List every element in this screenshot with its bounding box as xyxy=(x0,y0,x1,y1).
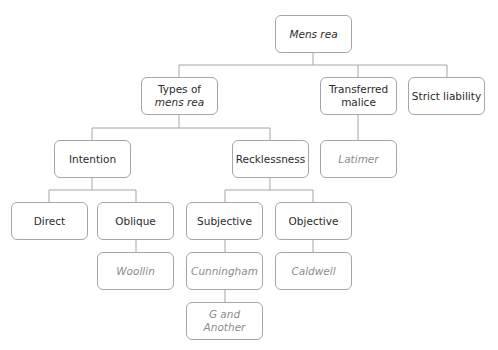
node-label: Oblique xyxy=(115,215,156,228)
node-label: Cunningham xyxy=(191,265,258,278)
node-direct: Direct xyxy=(11,202,88,240)
node-label: Caldwell xyxy=(291,265,335,278)
node-label-line2: mens rea xyxy=(155,96,204,109)
node-case-g-and-another: G and Another xyxy=(186,302,263,340)
node-case-cunningham: Cunningham xyxy=(186,252,263,290)
node-oblique: Oblique xyxy=(97,202,174,240)
node-label-line2: malice xyxy=(329,96,388,109)
node-label: Direct xyxy=(34,215,65,228)
node-label: Objective xyxy=(289,215,339,228)
node-label: Latimer xyxy=(338,153,378,166)
node-label: Woollin xyxy=(116,265,155,278)
node-subjective: Subjective xyxy=(186,202,263,240)
node-label: Subjective xyxy=(197,215,252,228)
node-case-caldwell: Caldwell xyxy=(275,252,352,290)
node-mens-rea: Mens rea xyxy=(275,15,352,53)
node-case-latimer: Latimer xyxy=(320,140,397,178)
node-label-line1: Transferred xyxy=(329,83,388,96)
node-objective: Objective xyxy=(275,202,352,240)
node-label: Intention xyxy=(69,153,116,166)
node-recklessness: Recklessness xyxy=(232,140,309,178)
node-case-woollin: Woollin xyxy=(97,252,174,290)
node-label: G and Another xyxy=(187,308,262,334)
node-strict-liability: Strict liability xyxy=(408,77,485,115)
node-types-of-mens-rea: Types of mens rea xyxy=(141,77,218,115)
node-label: Recklessness xyxy=(236,153,306,166)
node-label-line1: Types of xyxy=(155,83,204,96)
node-label: Mens rea xyxy=(289,28,337,41)
node-transferred-malice: Transferred malice xyxy=(320,77,397,115)
node-intention: Intention xyxy=(54,140,131,178)
node-label: Strict liability xyxy=(412,90,481,103)
